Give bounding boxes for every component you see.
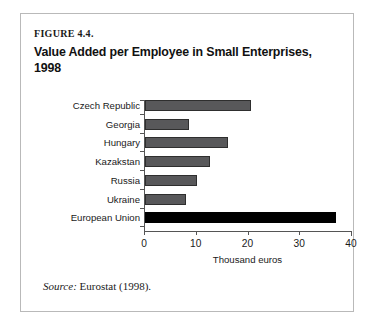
bar-row: [145, 137, 228, 148]
x-axis-tick-label: 20: [233, 238, 263, 249]
y-axis-tick: [140, 170, 144, 171]
source-label: Source:: [43, 280, 77, 292]
bar-kazakstan: [145, 156, 210, 167]
bar-row: [145, 100, 251, 111]
x-axis-tick: [248, 231, 249, 235]
bar-ukraine: [145, 194, 186, 205]
x-axis-tick-label: 40: [336, 238, 366, 249]
y-axis-tick: [140, 208, 144, 209]
x-axis-tick-label: 30: [284, 238, 314, 249]
x-axis-tick: [144, 231, 145, 235]
y-axis-tick: [140, 189, 144, 190]
category-label: European Union: [36, 212, 140, 223]
bar-row: [145, 156, 210, 167]
category-label: Czech Republic: [36, 100, 140, 111]
source-note: Source: Eurostat (1998).: [43, 280, 151, 292]
y-axis-tick: [140, 133, 144, 134]
y-axis-tick: [140, 226, 144, 227]
x-axis-tick: [196, 231, 197, 235]
figure-frame: FIGURE 4.4. Value Added per Employee in …: [20, 13, 354, 312]
x-axis-tick: [351, 231, 352, 236]
bar-row: [145, 175, 197, 186]
plot-area: 0 10 20 30 40: [144, 100, 351, 231]
x-axis-tick: [299, 231, 300, 235]
category-label: Hungary: [36, 137, 140, 148]
y-axis-tick: [140, 151, 144, 152]
category-label: Ukraine: [36, 194, 140, 205]
bar-row: [145, 119, 189, 130]
bar-european-union: [145, 212, 336, 223]
category-axis-labels: Czech Republic Georgia Hungary Kazakstan…: [34, 100, 140, 231]
source-value: Eurostat (1998).: [77, 280, 151, 292]
bar-hungary: [145, 137, 228, 148]
bar-row: [145, 194, 186, 205]
category-label: Kazakstan: [36, 156, 140, 167]
bar-czech-republic: [145, 100, 251, 111]
bar-row: [145, 212, 336, 223]
category-label: Georgia: [36, 119, 140, 130]
bar-chart: Czech Republic Georgia Hungary Kazakstan…: [34, 96, 342, 266]
y-axis-tick: [140, 100, 144, 101]
x-axis-tick-label: 10: [181, 238, 211, 249]
y-axis-tick: [140, 114, 144, 115]
bar-georgia: [145, 119, 189, 130]
bar-russia: [145, 175, 197, 186]
x-axis-title: Thousand euros: [144, 254, 351, 265]
figure-number-label: FIGURE 4.4.: [34, 28, 94, 39]
figure-title: Value Added per Employee in Small Enterp…: [34, 45, 334, 76]
category-label: Russia: [36, 175, 140, 186]
x-axis-tick-label: 0: [129, 238, 159, 249]
